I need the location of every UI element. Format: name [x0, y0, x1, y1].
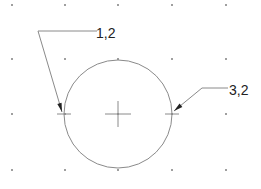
grid-dots: [11, 4, 227, 171]
drawing-canvas: 1,23,2: [0, 0, 261, 189]
grid-dot: [171, 4, 173, 6]
leaders: 1,23,2: [38, 25, 249, 112]
grid-dot: [171, 169, 173, 171]
grid-dot: [117, 169, 119, 171]
grid-dot: [225, 169, 227, 171]
grid-dot: [225, 113, 227, 115]
leader-label: 1,2: [96, 25, 116, 41]
leader-line: [38, 31, 97, 112]
grid-dot: [11, 113, 13, 115]
grid-dot: [64, 4, 66, 6]
grid-dot: [11, 169, 13, 171]
arrowhead-icon: [57, 103, 62, 112]
leader-1[interactable]: 1,2: [38, 25, 116, 112]
grid-dot: [64, 58, 66, 60]
grid-dot: [225, 4, 227, 6]
grid-dot: [11, 58, 13, 60]
leader-line: [174, 88, 228, 111]
grid-dot: [11, 4, 13, 6]
grid-dot: [171, 58, 173, 60]
grid-dot: [117, 4, 119, 6]
leader-2[interactable]: 3,2: [174, 82, 249, 111]
grid-dot: [225, 58, 227, 60]
leader-label: 3,2: [229, 82, 249, 98]
center-mark: [105, 101, 131, 127]
grid-dot: [64, 169, 66, 171]
